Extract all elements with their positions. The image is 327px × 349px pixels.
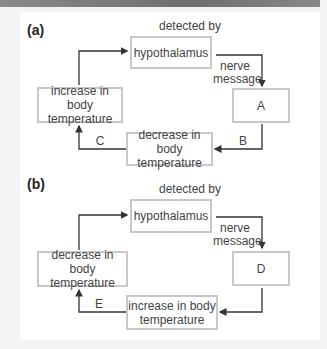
increase-line2: temperature [48,112,113,126]
box-a-text: A [257,99,265,113]
hypothalamus-text: hypothalamus [134,46,209,60]
message-text: message [213,73,257,86]
label-e: E [92,298,106,311]
decrease-line2: temperature [137,156,202,170]
decrease-line1-b: decrease in body [39,248,126,276]
decrease-line1: decrease in body [128,128,211,156]
hypothalamus-text-b: hypothalamus [134,209,209,223]
hypothalamus-box-b: hypothalamus [130,199,212,233]
hypothalamus-box: hypothalamus [130,36,212,69]
decrease-temp-box: decrease in body temperature [126,132,213,166]
label-c: C [93,135,107,148]
box-d-text: D [257,262,266,276]
label-b: B [236,135,250,148]
increase-temp-box-b: increase in body temperature [126,295,218,330]
message-text-b: message [213,235,257,248]
detected-by-text-b: detected by [140,183,240,196]
increase-temp-box: increase in body temperature [37,87,123,123]
increase-line1-b: increase in body [128,299,215,313]
diagram-b-label: (b) [27,176,45,192]
increase-line2-b: temperature [140,313,205,327]
diagram-a-label: (a) [27,22,44,38]
box-d: D [232,251,290,286]
detected-by-text: detected by [140,20,240,33]
decrease-line2-b: temperature [50,276,115,290]
decrease-temp-box-b: decrease in body temperature [37,251,128,287]
nerve-message-text-b: nerve message [213,222,257,248]
box-a: A [232,88,290,123]
nerve-message-text: nerve message [213,60,257,86]
increase-line1: increase in body [39,84,121,112]
